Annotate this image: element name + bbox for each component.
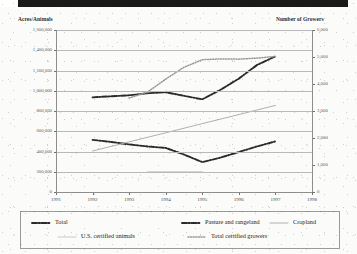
y2-axis-tick-label: 2,000 [317,135,328,140]
series-line [93,105,276,151]
legend-label: Pasture and rangeland [205,218,260,225]
y2-axis-tick-label: 1,000 [317,162,328,167]
scan-margin [0,0,18,7]
y-axis-tick-label: 1,200,000 [16,68,52,73]
x-axis-tick-label: 1992 [79,197,107,202]
legend-swatch [31,219,51,227]
x-axis-tick-label: 1991 [42,197,70,202]
plot-area: 0200,000400,000600,000800,0001,000,0001,… [56,30,312,192]
left-axis-title: Acres/Animals [18,16,53,22]
y2-axis-tick-label: 3,000 [317,108,328,113]
x-axis-tick-label: 1997 [261,197,289,202]
right-axis-title: Number of Growers [276,16,324,22]
x-axis-tick-label: 1996 [225,197,253,202]
legend-label: Cropland [293,218,316,225]
y-axis-tick-label: 0 [16,189,52,194]
legend-label: Total certified growers [211,232,267,239]
y2-axis-tick-label: 0 [317,189,319,194]
y2-axis-tick-label: 6,000 [317,27,328,32]
gridline-horizontal [56,111,312,112]
legend-swatch [181,219,201,227]
y-axis-tick-label: 600,000 [16,128,52,133]
legend-label: Total [55,218,68,225]
y-axis-tick-label: 200,000 [16,169,52,174]
x-axis-tick-label: 1995 [188,197,216,202]
y-axis-tick-label: 400,000 [16,149,52,154]
x-axis-line [56,192,312,193]
gridline-horizontal [56,91,312,92]
gridline-horizontal [56,172,312,173]
chart-legend: TotalPasture and rangelandCroplandU.S. c… [20,211,340,249]
series-line [129,56,275,98]
y2-axis-tick-label: 5,000 [317,54,328,59]
series-line [93,56,276,99]
legend-swatch [57,233,77,241]
scan-header-bar [18,0,348,7]
y-axis-line [56,30,57,192]
legend-label: U.S. certified animals [81,232,135,239]
x-axis-tick-label: 1994 [152,197,180,202]
y-axis-tick-label: 1,600,000 [16,27,52,32]
y-axis-tick-label: 1,400,000 [16,47,52,52]
y2-axis-line [312,30,313,192]
y-axis-tick-label: 1,000,000 [16,88,52,93]
x-axis-tick-label: 1993 [115,197,143,202]
y-axis-tick-label: 800,000 [16,108,52,113]
x-axis-tick-label: 1998 [298,197,326,202]
legend-swatch [269,219,289,227]
legend-swatch [187,233,207,241]
x-axis-tickmark [312,192,313,195]
gridline-horizontal [56,71,312,72]
gridline-horizontal [56,131,312,132]
gridline-horizontal [56,152,312,153]
y2-axis-tick-label: 4,000 [317,81,328,86]
gridline-horizontal [56,30,312,31]
figure-page: Acres/Animals Number of Growers 0200,000… [0,0,357,254]
gridline-horizontal [56,50,312,51]
